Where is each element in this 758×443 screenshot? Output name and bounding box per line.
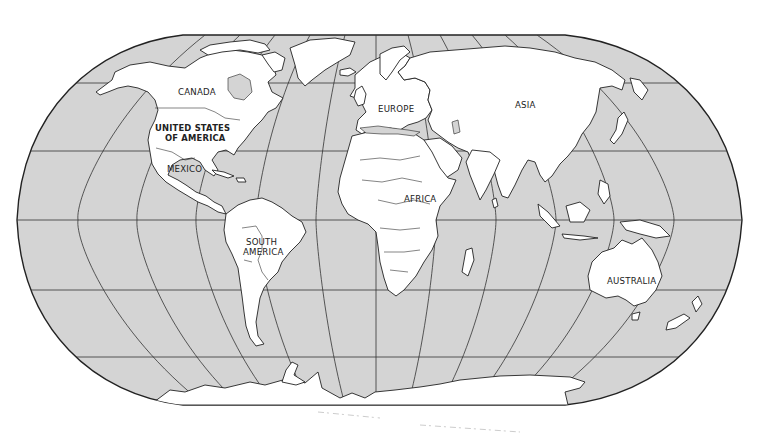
label-australia: AUSTRALIA	[607, 276, 656, 286]
world-map: CANADA UNITED STATES OF AMERICA MEXICO S…	[0, 0, 758, 443]
label-south-america-line2: AMERICA	[243, 247, 284, 257]
label-usa-line1: UNITED STATES	[155, 123, 230, 133]
label-usa-line2: OF AMERICA	[165, 133, 226, 143]
label-asia: ASIA	[515, 100, 536, 110]
label-canada: CANADA	[178, 87, 216, 97]
label-south-america-line1: SOUTH	[246, 237, 277, 247]
label-mexico: MEXICO	[167, 164, 202, 174]
label-europe: EUROPE	[378, 104, 414, 114]
label-africa: AFRICA	[404, 194, 436, 204]
print-artifact	[318, 412, 520, 432]
landmass-hispaniola	[236, 178, 246, 182]
